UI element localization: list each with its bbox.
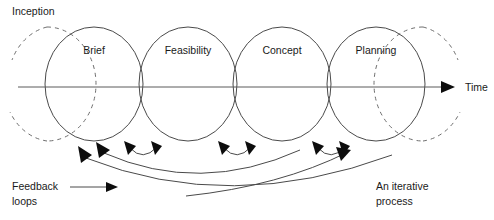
phase-label-concept: Concept — [262, 44, 301, 56]
phase-label-feasibility: Feasibility — [165, 44, 212, 56]
annotation-feedback-loops-line1: Feedback — [12, 180, 59, 192]
annotation-feedback-loops-line2: loops — [12, 195, 37, 207]
iterative-process-diagram: Brief Feasibility Concept Planning Time … — [0, 0, 494, 220]
phase-label-planning: Planning — [356, 44, 397, 56]
annotation-inception: Inception — [12, 5, 55, 17]
annotation-iterative-process-line1: An iterative — [376, 180, 429, 192]
ghost-right-mask — [0, 0, 424, 220]
phase-label-brief: Brief — [83, 44, 105, 56]
annotation-iterative-process-line2: process — [376, 195, 413, 207]
process-diagram-canvas: Brief Feasibility Concept Planning Time … — [0, 0, 494, 220]
time-axis-label: Time — [465, 81, 488, 93]
